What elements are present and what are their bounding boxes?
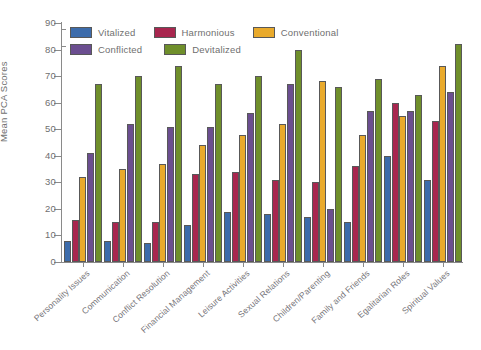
x-tick-mark — [243, 262, 244, 267]
bar-group — [384, 23, 421, 262]
bar-conventional-egalitarian-roles — [399, 116, 406, 262]
bar-group — [64, 23, 101, 262]
bar-conventional-financial-management — [199, 145, 206, 262]
legend-bracket-mark — [61, 46, 66, 47]
bar-devitalized-communication — [135, 76, 142, 262]
x-tick-mark — [443, 262, 444, 267]
legend-swatch-icon — [70, 27, 92, 38]
legend-swatch-icon — [164, 44, 186, 55]
bar-conventional-spiritual-values — [439, 66, 446, 263]
bar-group — [304, 23, 341, 262]
legend-label: Conflicted — [98, 44, 142, 55]
y-tick-label: 0 — [51, 257, 56, 267]
x-tick-mark — [203, 262, 204, 267]
bar-harmonious-personality-issues — [72, 220, 79, 262]
bar-harmonious-spiritual-values — [432, 121, 439, 262]
bar-vitalized-financial-management — [184, 225, 191, 262]
bar-devitalized-egalitarian-roles — [415, 95, 422, 262]
bar-conventional-conflict-resolution — [159, 164, 166, 262]
legend-item-vitalized[interactable]: Vitalized — [70, 27, 136, 38]
legend-item-devitalized[interactable]: Devitalized — [164, 44, 241, 55]
bar-conventional-sexual-relations — [279, 124, 286, 262]
legend-label: Conventional — [281, 27, 339, 38]
bar-conventional-communication — [119, 169, 126, 262]
bar-group — [424, 23, 461, 262]
chart-legend: VitalizedHarmoniousConventionalConflicte… — [70, 24, 370, 58]
y-tick-label: 50 — [45, 124, 56, 134]
legend-swatch-icon — [154, 27, 176, 38]
legend-row: VitalizedHarmoniousConventional — [70, 24, 370, 41]
x-tick-mark — [83, 262, 84, 267]
bar-devitalized-children-parenting — [335, 87, 342, 262]
bar-conflicted-egalitarian-roles — [407, 111, 414, 262]
bar-devitalized-sexual-relations — [295, 50, 302, 262]
bar-harmonious-communication — [112, 222, 119, 262]
bar-group — [344, 23, 381, 262]
legend-item-harmonious[interactable]: Harmonious — [154, 27, 235, 38]
bar-devitalized-leisure-activities — [255, 76, 262, 262]
bar-harmonious-conflict-resolution — [152, 222, 159, 262]
x-tick-mark — [123, 262, 124, 267]
bar-devitalized-conflict-resolution — [175, 66, 182, 263]
legend-item-conventional[interactable]: Conventional — [253, 27, 339, 38]
bar-harmonious-children-parenting — [312, 182, 319, 262]
bar-chart: Mean PCA Scores 0102030405060708090 Vita… — [0, 0, 481, 350]
bar-harmonious-financial-management — [192, 174, 199, 262]
bar-conflicted-conflict-resolution — [167, 127, 174, 262]
bar-vitalized-children-parenting — [304, 217, 311, 262]
x-tick-mark — [163, 262, 164, 267]
bar-vitalized-egalitarian-roles — [384, 156, 391, 262]
y-tick-label: 70 — [45, 71, 56, 81]
bar-group — [264, 23, 301, 262]
legend-label: Devitalized — [192, 44, 241, 55]
bar-conflicted-personality-issues — [87, 153, 94, 262]
bar-conventional-leisure-activities — [239, 135, 246, 262]
bar-vitalized-conflict-resolution — [144, 243, 151, 262]
x-tick-mark — [323, 262, 324, 267]
bar-devitalized-personality-issues — [95, 84, 102, 262]
legend-label: Harmonious — [182, 27, 235, 38]
bar-conventional-children-parenting — [319, 81, 326, 262]
bar-conventional-personality-issues — [79, 177, 86, 262]
plot-area: 0102030405060708090 — [62, 23, 462, 262]
bar-vitalized-spiritual-values — [424, 180, 431, 262]
bar-conflicted-children-parenting — [327, 209, 334, 262]
bar-harmonious-egalitarian-roles — [392, 103, 399, 262]
bar-harmonious-family-and-friends — [352, 166, 359, 262]
y-tick-label: 30 — [45, 178, 56, 188]
bar-vitalized-communication — [104, 241, 111, 262]
bar-group — [224, 23, 261, 262]
bar-vitalized-family-and-friends — [344, 222, 351, 262]
legend-label: Vitalized — [98, 27, 136, 38]
legend-row: ConflictedDevitalized — [70, 41, 370, 58]
legend-swatch-icon — [70, 44, 92, 55]
y-tick-label: 20 — [45, 204, 56, 214]
x-axis-label-financial-management: Financial Management — [139, 268, 212, 335]
bar-conflicted-leisure-activities — [247, 113, 254, 262]
y-tick-label: 40 — [45, 151, 56, 161]
bar-vitalized-personality-issues — [64, 241, 71, 262]
bar-harmonious-sexual-relations — [272, 180, 279, 262]
bar-conflicted-communication — [127, 124, 134, 262]
bar-devitalized-financial-management — [215, 84, 222, 262]
bar-conventional-family-and-friends — [359, 135, 366, 262]
bar-group — [144, 23, 181, 262]
y-tick-label: 90 — [45, 18, 56, 28]
bar-conflicted-spiritual-values — [447, 92, 454, 262]
bar-devitalized-spiritual-values — [455, 44, 462, 262]
x-axis-label-personality-issues: Personality Issues — [32, 268, 92, 323]
y-tick-label: 80 — [45, 45, 56, 55]
x-tick-mark — [363, 262, 364, 267]
x-tick-mark — [283, 262, 284, 267]
bar-group — [104, 23, 141, 262]
y-tick-label: 10 — [45, 231, 56, 241]
legend-swatch-icon — [253, 27, 275, 38]
bar-devitalized-family-and-friends — [375, 79, 382, 262]
bar-group — [184, 23, 221, 262]
bar-conflicted-family-and-friends — [367, 111, 374, 262]
bar-conflicted-financial-management — [207, 127, 214, 262]
y-axis-title: Mean PCA Scores — [0, 61, 9, 142]
bar-vitalized-sexual-relations — [264, 214, 271, 262]
legend-item-conflicted[interactable]: Conflicted — [70, 44, 142, 55]
y-tick-label: 60 — [45, 98, 56, 108]
